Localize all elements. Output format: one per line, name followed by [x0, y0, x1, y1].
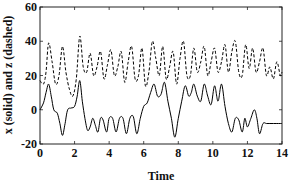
x-tick-label: 14: [276, 146, 288, 160]
x-tick-label: 8: [175, 146, 181, 160]
x-tick-label: 6: [141, 146, 147, 160]
y-tick-label: 0: [31, 103, 37, 117]
y-tick-label: 20: [25, 69, 37, 83]
x-tick-label: 0: [37, 146, 43, 160]
x-tick-label: 4: [106, 146, 112, 160]
x-axis-label: Time: [148, 169, 175, 183]
x-tick-label: 12: [241, 146, 253, 160]
y-tick-label: 60: [25, 0, 37, 14]
line-chart: -200204060 02468101214 Time x (solid) an…: [0, 0, 290, 186]
y-tick-label: 40: [25, 34, 37, 48]
y-axis-label: x (solid) and z (dashed): [1, 16, 15, 135]
x-tick-label: 2: [72, 146, 78, 160]
x-tick-label: 10: [207, 146, 219, 160]
y-tick-label: -20: [21, 137, 37, 151]
